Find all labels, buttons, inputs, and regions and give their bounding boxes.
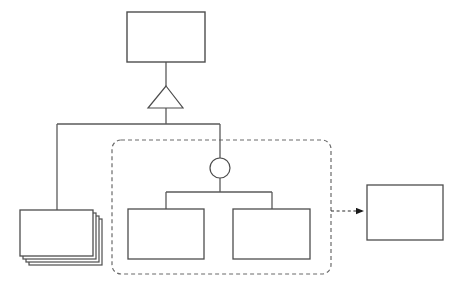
inner-left-class-box[interactable] — [128, 209, 204, 259]
generalization-triangle[interactable] — [148, 86, 183, 108]
inner-right-class-box[interactable] — [233, 209, 310, 259]
stacked-class-box-front[interactable] — [20, 210, 93, 256]
stacked-class-box[interactable] — [20, 210, 102, 265]
junction-circle[interactable] — [210, 158, 230, 178]
top-class-box[interactable] — [127, 12, 205, 62]
diagram-svg-surface — [0, 0, 459, 288]
target-class-box[interactable] — [367, 185, 443, 240]
diagram-canvas — [0, 0, 459, 288]
